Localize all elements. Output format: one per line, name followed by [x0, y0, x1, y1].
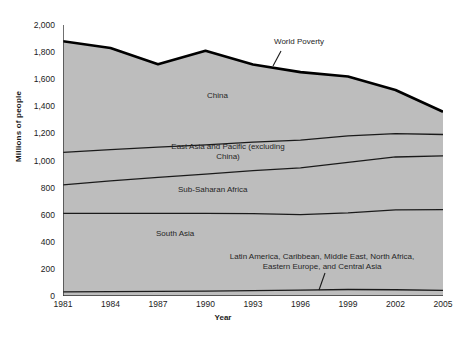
y-tick-label: 1,400 — [11, 101, 55, 111]
y-tick-label: 1,000 — [11, 156, 55, 166]
y-tick-label: 1,800 — [11, 47, 55, 57]
y-tick-label: 600 — [11, 210, 55, 220]
area-band-1 — [63, 210, 443, 292]
y-tick-label: 2,000 — [11, 20, 55, 30]
x-tick-label: 1996 — [279, 299, 323, 309]
y-tick-label: 200 — [11, 264, 55, 274]
annotation-east-asia-line1: East Asia and Pacific (excluding — [148, 142, 308, 152]
x-tick-label: 1993 — [231, 299, 275, 309]
annotation-east-asia-line2: China) — [148, 152, 308, 162]
annotation-sub-saharan-africa: Sub-Saharan Africa — [178, 185, 247, 195]
x-tick-label: 1987 — [136, 299, 180, 309]
x-tick-label: 1999 — [326, 299, 370, 309]
x-tick-label: 1984 — [89, 299, 133, 309]
x-tick-label: 1990 — [184, 299, 228, 309]
y-tick-label: 800 — [11, 183, 55, 193]
leader-line-world-poverty — [273, 51, 281, 66]
annotation-latin-america-line1: Latin America, Caribbean, Middle East, N… — [222, 252, 422, 262]
annotation-latin-america-line2: Eastern Europe, and Central Asia — [222, 262, 422, 272]
x-tick-label: 2005 — [421, 299, 457, 309]
x-axis-title: Year — [0, 313, 446, 322]
x-tick-label: 2002 — [374, 299, 418, 309]
annotation-china: China — [207, 91, 228, 101]
y-tick-label: 1,200 — [11, 128, 55, 138]
y-tick-label: 1,600 — [11, 74, 55, 84]
figure-caption — [4, 331, 444, 340]
y-tick-label: 400 — [11, 237, 55, 247]
annotation-world-poverty: World Poverty — [274, 37, 324, 47]
x-tick-label: 1981 — [41, 299, 85, 309]
annotation-south-asia: South Asia — [156, 229, 194, 239]
